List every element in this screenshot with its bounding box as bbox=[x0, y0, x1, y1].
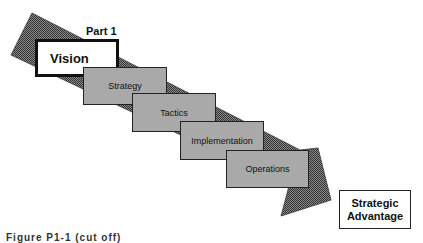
stage-label: Vision bbox=[50, 51, 89, 66]
outcome-line-1: Strategic bbox=[351, 197, 398, 210]
outcome-line-2: Advantage bbox=[347, 210, 403, 223]
stage-operations: Operations bbox=[226, 150, 309, 188]
outcome-strategic-advantage: Strategic Advantage bbox=[339, 190, 411, 229]
stage-label: Operations bbox=[245, 164, 289, 174]
stage-label: Implementation bbox=[191, 136, 253, 146]
stage-label: Strategy bbox=[108, 81, 142, 91]
part-label: Part 1 bbox=[86, 25, 117, 37]
stage-label: Tactics bbox=[160, 108, 188, 118]
figure-caption: Figure P1-1 (cut off) bbox=[6, 232, 121, 243]
